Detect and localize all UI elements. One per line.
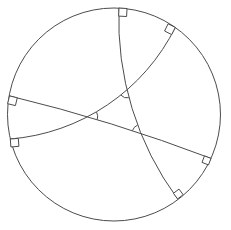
angle-top-vertex	[121, 95, 129, 98]
right-angle-left-upper	[8, 96, 18, 106]
angle-right-vertex	[132, 125, 137, 131]
geodesic-vertical	[119, 8, 178, 199]
geodesic-descending	[10, 96, 212, 158]
right-angle-left-lower	[10, 138, 19, 147]
right-angle-top	[119, 8, 127, 16]
right-angle-top-right	[165, 24, 176, 35]
diagram-svg	[0, 0, 231, 230]
right-angle-bottom	[173, 189, 183, 199]
boundary-circle	[8, 8, 221, 221]
angle-left-vertex	[97, 112, 98, 119]
geodesic-ascending	[10, 27, 175, 139]
right-angle-right	[202, 156, 211, 165]
geometry-diagram	[0, 0, 231, 230]
